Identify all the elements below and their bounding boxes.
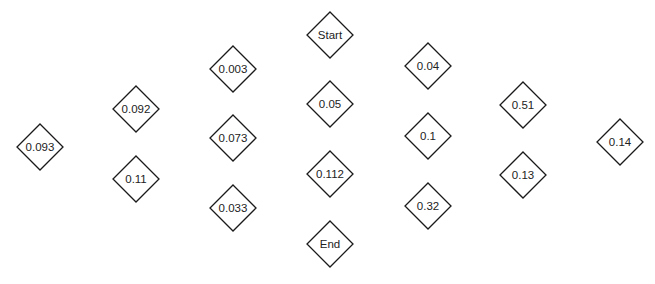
node-label: 0.112 [316,168,344,180]
diamond-node-n051: 0.51 [500,82,546,128]
diamond-node-n0033: 0.033 [210,185,256,231]
diamond-node-n011: 0.11 [113,156,159,202]
node-label: 0.14 [609,136,632,148]
diamond-node-n0092: 0.092 [113,86,159,132]
node-label: 0.092 [122,103,151,115]
diamond-diagram: 0.0930.0920.110.0030.0730.033Start0.050.… [0,0,655,284]
diamond-node-n014: 0.14 [597,119,643,165]
node-label: 0.033 [219,202,248,214]
node-label: 0.073 [219,132,248,144]
node-label: 0.11 [125,173,147,185]
node-label: 0.1 [420,130,436,142]
diamond-node-n01: 0.1 [405,113,451,159]
node-label: 0.05 [319,98,341,110]
diamond-node-n0073: 0.073 [210,115,256,161]
node-label: 0.04 [417,60,440,72]
diamond-node-n0093: 0.093 [17,124,63,170]
node-label: 0.32 [417,200,439,212]
diamond-node-n0112: 0.112 [307,151,353,197]
diamond-node-end: End [307,221,353,267]
diamond-node-n032: 0.32 [405,183,451,229]
node-label: End [320,238,340,250]
diamond-node-n013: 0.13 [500,152,546,198]
diamond-node-start: Start [307,12,353,58]
node-label: 0.003 [219,63,248,75]
diamond-node-n0003: 0.003 [210,46,256,92]
node-label: 0.093 [26,141,55,153]
node-label: Start [318,29,343,41]
node-label: 0.13 [512,169,534,181]
node-label: 0.51 [512,99,534,111]
diamond-node-n004: 0.04 [405,43,451,89]
diamond-node-n005: 0.05 [307,81,353,127]
